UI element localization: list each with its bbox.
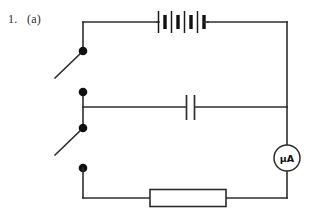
switch-top-blade[interactable] <box>55 52 82 78</box>
resistor-icon <box>150 190 226 207</box>
capacitor-icon <box>187 95 195 120</box>
switch-bottom-blade[interactable] <box>55 129 82 155</box>
circuit-diagram-page: 1. (a) <box>0 0 309 221</box>
battery-icon <box>157 11 208 33</box>
switch-top[interactable] <box>55 47 87 78</box>
switch-bottom[interactable] <box>55 124 87 155</box>
switch-bottom-pivot-dot[interactable] <box>79 124 88 133</box>
microammeter-label: μA <box>280 153 295 164</box>
middle-branch <box>83 92 287 128</box>
microammeter-icon: μA <box>274 145 300 171</box>
node-dot-switch-top-lower <box>79 88 88 97</box>
switch-top-pivot-dot[interactable] <box>79 47 88 56</box>
circuit-svg: μA <box>0 0 309 221</box>
